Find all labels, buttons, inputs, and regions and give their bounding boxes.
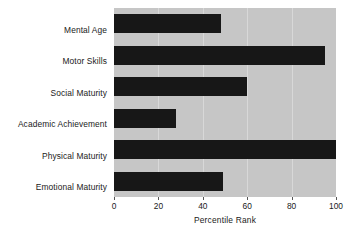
bar-chart: Mental Age Motor Skills Social Maturity … <box>0 0 355 237</box>
x-tick-mark <box>114 197 115 200</box>
gridline <box>292 8 293 197</box>
gridline <box>203 8 204 197</box>
plot-area <box>114 8 336 197</box>
category-label-emotional-maturity: Emotional Maturity <box>36 182 107 192</box>
gridline <box>247 8 248 197</box>
bar <box>114 77 247 96</box>
x-tick-mark <box>336 197 337 200</box>
x-tick-label: 100 <box>329 201 343 211</box>
x-axis: 020406080100 <box>114 197 336 217</box>
x-tick-label: 20 <box>154 201 163 211</box>
x-axis-title: Percentile Rank <box>114 215 336 225</box>
category-label-physical-maturity: Physical Maturity <box>42 151 107 161</box>
category-label-social-maturity: Social Maturity <box>51 88 107 98</box>
x-tick-label: 0 <box>112 201 117 211</box>
x-tick-mark <box>158 197 159 200</box>
x-tick-mark <box>203 197 204 200</box>
bar <box>114 46 325 65</box>
bar <box>114 109 176 128</box>
x-tick-label: 40 <box>198 201 207 211</box>
category-label-motor-skills: Motor Skills <box>63 56 107 66</box>
gridline <box>158 8 159 197</box>
bar <box>114 140 336 159</box>
bar <box>114 172 223 191</box>
bar <box>114 14 221 33</box>
x-tick-label: 80 <box>287 201 296 211</box>
x-tick-label: 60 <box>243 201 252 211</box>
x-tick-mark <box>247 197 248 200</box>
category-label-academic-achievement: Academic Achievement <box>18 119 107 129</box>
category-axis: Mental Age Motor Skills Social Maturity … <box>0 8 111 197</box>
x-tick-mark <box>292 197 293 200</box>
category-label-mental-age: Mental Age <box>64 25 107 35</box>
